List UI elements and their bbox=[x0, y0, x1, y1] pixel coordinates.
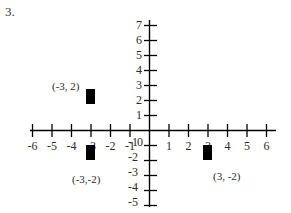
x-tick-label-neg4: -4 bbox=[62, 140, 82, 152]
y-axis-ticks bbox=[144, 26, 157, 206]
x-tick-label-neg6: -6 bbox=[23, 140, 43, 152]
y-tick-label-neg3: -3 bbox=[122, 166, 138, 178]
coordinate-axes-svg bbox=[0, 0, 291, 213]
y-tick-label-7: 7 bbox=[126, 19, 142, 31]
x-tick-label-neg5: -5 bbox=[42, 140, 62, 152]
y-tick-label-neg5: -5 bbox=[122, 196, 138, 208]
x-tick-label-5: 5 bbox=[237, 140, 257, 152]
point-label-neg3-neg2: (-3,-2) bbox=[72, 173, 100, 185]
point-marker-neg3-neg2 bbox=[86, 145, 95, 160]
coordinate-plane-figure: 3. bbox=[0, 0, 291, 213]
y-tick-label-3: 3 bbox=[126, 79, 142, 91]
point-label-neg3-2: (-3, 2) bbox=[52, 80, 80, 92]
x-tick-label-1: 1 bbox=[159, 140, 179, 152]
y-tick-label-neg4: -4 bbox=[122, 181, 138, 193]
point-marker-neg3-2 bbox=[86, 89, 95, 104]
x-tick-label-2: 2 bbox=[179, 140, 199, 152]
x-tick-label-neg2: -2 bbox=[101, 140, 121, 152]
y-tick-label-2: 2 bbox=[126, 94, 142, 106]
y-tick-label-4: 4 bbox=[126, 64, 142, 76]
x-tick-label-6: 6 bbox=[257, 140, 277, 152]
point-label-3-neg2: (3, -2) bbox=[213, 170, 241, 182]
x-tick-label-neg1: -1 bbox=[120, 140, 140, 152]
y-tick-label-5: 5 bbox=[126, 49, 142, 61]
y-tick-label-6: 6 bbox=[126, 34, 142, 46]
point-marker-3-neg2 bbox=[203, 145, 212, 160]
y-tick-label-1: 1 bbox=[126, 109, 142, 121]
x-tick-label-4: 4 bbox=[218, 140, 238, 152]
